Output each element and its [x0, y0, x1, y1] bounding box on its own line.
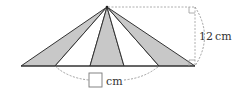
triangle-fan-diagram: 12cm cm: [0, 0, 239, 96]
base-unit-label: cm: [106, 75, 123, 88]
right-angle-mark-top: [189, 7, 195, 13]
answer-blank-box[interactable]: [89, 73, 102, 87]
base-dimension-arc-right: [124, 66, 159, 80]
apex-point: [106, 6, 109, 9]
base-dimension-arc-left: [55, 66, 89, 80]
height-label: 12cm: [199, 30, 232, 43]
